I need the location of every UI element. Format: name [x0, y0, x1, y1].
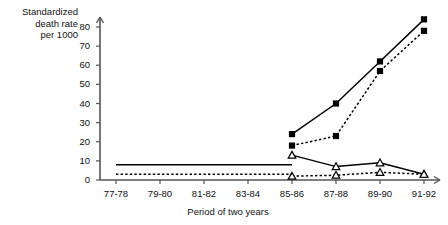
data-point-marker	[288, 151, 296, 158]
data-point-marker	[377, 68, 383, 74]
series-line	[292, 19, 424, 134]
data-point-marker	[333, 133, 339, 139]
data-point-marker	[333, 100, 339, 106]
plot-area	[0, 0, 448, 225]
series-line	[292, 172, 424, 176]
axis-lines	[96, 17, 440, 184]
series-line	[292, 155, 424, 174]
data-point-marker	[289, 131, 295, 137]
data-point-marker	[421, 16, 427, 22]
data-point-marker	[289, 142, 295, 148]
data-point-marker	[377, 58, 383, 64]
data-point-marker	[421, 28, 427, 34]
series-line	[292, 31, 424, 146]
data-point-marker	[376, 169, 384, 176]
data-point-marker	[288, 172, 296, 179]
chart-container: Standardized death rate per 1000 0102030…	[0, 0, 448, 225]
series-lines	[116, 16, 428, 179]
